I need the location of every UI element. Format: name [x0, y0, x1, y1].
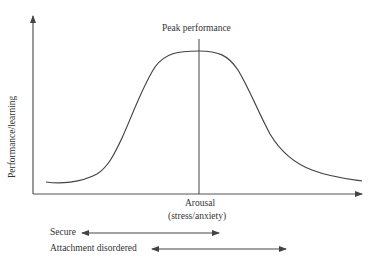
- x-axis-sublabel: (stress/anxiety): [168, 211, 226, 221]
- inverted-u-diagram: [0, 0, 382, 263]
- x-axis-label: Arousal: [185, 198, 215, 208]
- secure-label: Secure: [50, 227, 76, 237]
- y-axis-label: Performance/learning: [7, 96, 17, 178]
- performance-curve: [46, 51, 362, 183]
- attachment-disordered-label: Attachment disordered: [50, 243, 137, 253]
- peak-label: Peak performance: [162, 23, 231, 33]
